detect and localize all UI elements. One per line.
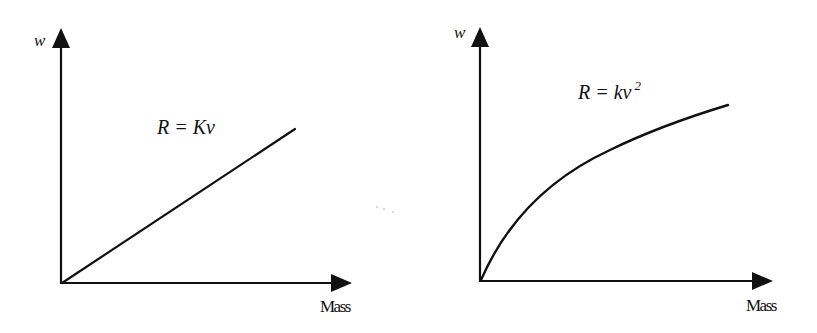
- diagram-canvas: w R = Kv Mass w R = kv2 Mass: [0, 0, 817, 333]
- right-concave-curve: [481, 105, 728, 280]
- right-y-axis-label: w: [454, 23, 466, 42]
- right-x-axis-arrow-icon: [752, 272, 773, 290]
- left-x-axis-label: Mass: [320, 297, 351, 316]
- left-y-axis-arrow-icon: [52, 28, 70, 48]
- left-y-axis-label: w: [34, 31, 46, 50]
- right-graph: w R = kv2 Mass: [454, 23, 777, 315]
- right-equation-label: R = kv2: [577, 78, 641, 103]
- left-x-axis-arrow-icon: [331, 274, 352, 292]
- left-equation-label: R = Kv: [156, 116, 215, 138]
- right-y-axis-arrow-icon: [471, 27, 489, 47]
- right-x-axis-label: Mass: [746, 296, 777, 315]
- left-linear-curve: [62, 129, 295, 283]
- left-graph: w R = Kv Mass: [34, 28, 352, 316]
- scan-artifact: [376, 206, 394, 213]
